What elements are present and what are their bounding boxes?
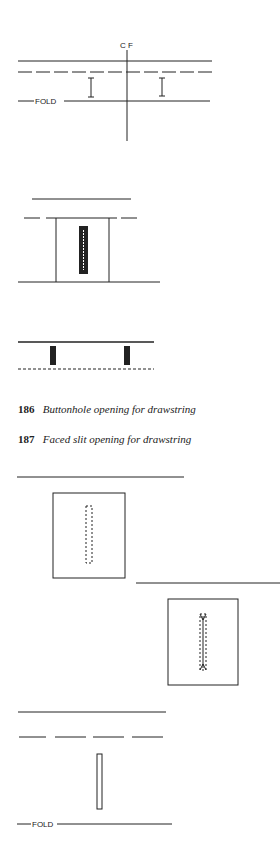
slit-opening [97,754,102,809]
figure-3-casing-buttonholes [18,342,154,369]
facing-square [53,493,125,578]
caption-187: 187 Faced slit opening for drawstring [18,433,191,445]
caption-text: Faced slit opening for drawstring [43,433,192,445]
fold-label: FOLD [32,820,54,829]
buttonhole-marker-right [159,78,165,96]
buttonhole-marker-left [88,78,94,97]
illustration-canvas: C F FOLD FOLD [0,0,280,856]
caption-text: Buttonhole opening for drawstring [43,403,196,415]
caption-186: 186 Buttonhole opening for drawstring [18,403,196,415]
buttonhole-right [124,346,130,365]
fold-label: FOLD [35,97,57,106]
figure-6-finished-casing [17,712,172,824]
center-front-label: C F [120,41,133,50]
figure-2-buttonhole-detail [18,199,160,282]
caption-number: 186 [18,403,40,415]
figure-4-faced-slit-facing [17,477,184,578]
caption-number: 187 [18,433,40,445]
slit-stitching [86,506,92,563]
figure-5-faced-slit-cut [136,583,280,685]
buttonhole-left [50,346,56,365]
figure-1-buttonhole-layout [18,50,212,141]
